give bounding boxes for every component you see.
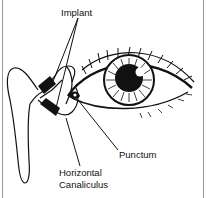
punctum-opening — [73, 93, 76, 96]
implant-plugs — [38, 76, 60, 116]
eye-highlight — [136, 68, 145, 77]
label-canaliculus: Canaliculus — [59, 179, 108, 190]
eye — [68, 47, 194, 118]
label-punctum: Punctum — [119, 149, 157, 160]
label-horizontal: Horizontal — [59, 167, 102, 178]
eye-punctal-plug-diagram: Implant Punctum Horizontal Canaliculus — [0, 0, 206, 198]
punctum-leader — [78, 100, 118, 150]
label-implant: Implant — [61, 7, 93, 18]
canaliculus-leader — [66, 118, 80, 166]
diagram-canvas: Implant Punctum Horizontal Canaliculus — [0, 0, 206, 198]
lower-implant-plug — [40, 98, 60, 116]
